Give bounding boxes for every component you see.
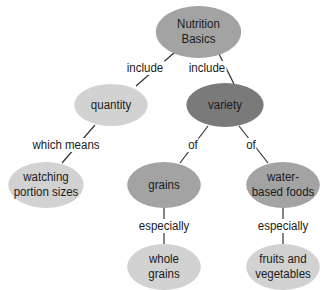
link-label-include-left: include [126,61,164,75]
node-grains: grains [127,162,201,208]
node-text: water- [252,170,315,185]
node-text: grains [148,267,179,282]
node-text: whole [148,252,179,267]
node-text: vegetables [255,267,311,282]
node-watching-portion-sizes: watching portion sizes [8,162,83,208]
link-label-of-right: of [245,138,256,152]
node-water-based-foods: water- based foods [246,162,320,208]
node-text: quantity [91,98,131,113]
node-text: based foods [252,185,315,200]
node-text: portion sizes [14,185,79,200]
node-text: grains [148,178,179,193]
node-text: Basics [177,32,220,47]
link-label-especially-right: especially [257,219,309,233]
node-quantity: quantity [74,84,148,126]
link-label-especially-left: especially [138,219,190,233]
node-text: Nutrition [177,17,220,32]
node-nutrition-basics: Nutrition Basics [156,6,242,58]
link-label-of-left: of [187,138,198,152]
link-label-include-right: include [188,61,226,75]
link-label-which-means: which means [32,138,101,152]
node-variety: variety [186,83,263,127]
node-text: watching [14,170,79,185]
node-whole-grains: whole grains [127,244,201,290]
node-fruits-and-vegetables: fruits and vegetables [246,244,320,290]
node-text: variety [208,98,242,113]
node-text: fruits and [255,252,311,267]
